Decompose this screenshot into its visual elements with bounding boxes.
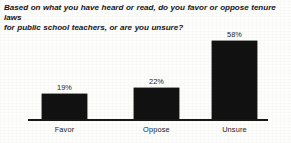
bar-oppose [134, 88, 179, 120]
x-axis-line [28, 119, 268, 121]
category-label-oppose: Oppose [118, 125, 195, 134]
bar-favor [42, 94, 87, 120]
bar-value-favor: 19% [42, 83, 87, 92]
bar-group-unsure: 58% Unsure [212, 41, 257, 120]
category-label-favor: Favor [26, 125, 103, 134]
category-label-unsure: Unsure [196, 125, 273, 134]
bar-chart-figure: Based on what you have heard or read, do… [0, 0, 291, 143]
bar-value-unsure: 58% [212, 30, 257, 39]
plot-area: 19% Favor 22% Oppose 58% Unsure [0, 24, 291, 143]
bar-value-oppose: 22% [134, 77, 179, 86]
bar-unsure [212, 41, 257, 120]
bar-group-oppose: 22% Oppose [134, 88, 179, 120]
bar-group-favor: 19% Favor [42, 94, 87, 120]
